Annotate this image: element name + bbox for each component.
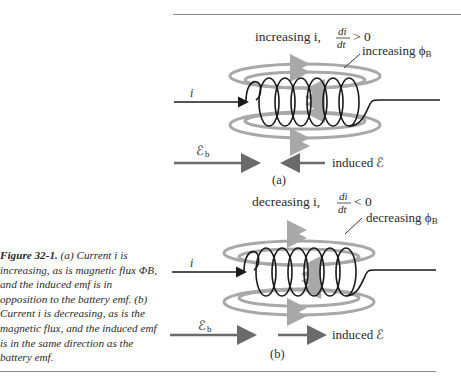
svg-text:decreasing i,: decreasing i, [252,194,320,209]
derivative-den-a: dt [337,38,347,50]
flux-sub-a: B [426,49,432,59]
flux-pointer-b [345,218,362,234]
derivative-num-b: di [339,190,348,202]
coil-a [174,78,440,126]
flux-sub-b: B [432,216,438,226]
derivative-num-a: di [338,25,347,37]
battery-emf-sub-a: b [205,149,210,159]
svg-text:decreasing ϕB: decreasing ϕB [366,210,438,226]
svg-text:ℰb: ℰb [198,318,212,334]
field-lines-a [230,64,380,138]
induced-label-a: induced ℰ [332,155,384,170]
inductor-diagram: increasing i, di dt > 0 increasing ϕB i … [0,0,461,378]
derivative-rel-b: < 0 [354,194,372,209]
svg-text:increasing i,: increasing i, [255,29,321,44]
derivative-rel-a: > 0 [353,29,371,44]
current-label-b: i [190,256,193,270]
battery-emf-a: ℰ [196,143,204,158]
panel-a: increasing i, di dt > 0 increasing ϕB i … [174,25,440,187]
battery-emf-sub-b: b [207,324,212,334]
panel-label-a: (a) [272,173,286,187]
panel-label-b: (b) [270,347,285,361]
panel-b: decreasing i, di dt < 0 decreasing ϕB i … [170,190,438,361]
induced-label-b: induced ℰ [332,327,384,342]
title-b: decreasing i, [252,194,320,209]
battery-emf-b: ℰ [198,318,206,333]
svg-text:increasing ϕB: increasing ϕB [362,43,432,59]
title-a: increasing i, [255,29,321,44]
derivative-den-b: dt [338,203,348,215]
flux-label-b: decreasing ϕ [366,210,432,225]
svg-text:ℰb: ℰb [196,143,210,159]
current-label-a: i [190,86,193,100]
flux-label-a: increasing ϕ [362,43,426,58]
